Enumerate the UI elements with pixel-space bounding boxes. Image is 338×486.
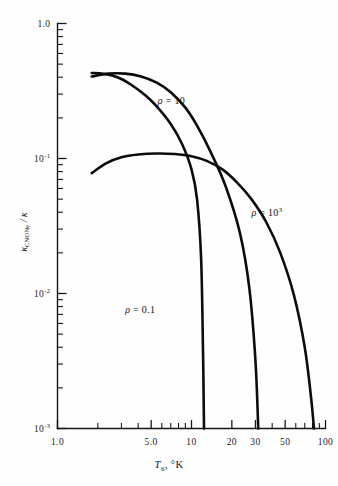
- data-curves-group: [92, 73, 314, 429]
- x-tick-label: 20: [227, 437, 237, 447]
- axes-group: [58, 24, 326, 429]
- tick-labels-group: 1.05.0102030501001.010-110-210-3: [34, 19, 333, 447]
- ticks-group: [58, 24, 326, 429]
- data-curve-rho-10: [92, 73, 259, 428]
- svg-text:κCNONe / κ: κCNONe / κ: [18, 212, 30, 252]
- svg-text:T6, °K: T6, °K: [155, 459, 184, 472]
- y-tick-label: 10-1: [34, 152, 51, 164]
- x-tick-label: 50: [280, 437, 290, 447]
- y-axis-title: κCNONe / κ: [18, 212, 30, 252]
- x-tick-label: 30: [250, 437, 260, 447]
- y-tick-label: 10-2: [34, 287, 51, 299]
- y-tick-label: 10-3: [34, 422, 51, 434]
- chart-canvas: 1.05.0102030501001.010-110-210-3 ρ = 0.1…: [0, 0, 338, 486]
- y-tick-label: 1.0: [37, 19, 50, 29]
- curve-label-rho-1e3: ρ = 103: [250, 206, 282, 218]
- x-tick-label: 10: [186, 437, 196, 447]
- curve-labels-group: ρ = 0.1ρ = 10ρ = 103: [124, 95, 282, 315]
- x-axis-title: T6, °K: [155, 459, 184, 472]
- x-tick-label: 5.0: [145, 437, 158, 447]
- data-curve-rho-0.1: [92, 73, 204, 429]
- x-tick-label: 1.0: [51, 437, 64, 447]
- x-tick-label: 100: [318, 437, 333, 447]
- curve-label-rho-10: ρ = 10: [157, 95, 185, 106]
- curve-label-rho-0.1: ρ = 0.1: [124, 304, 155, 315]
- chart-figure: 1.05.0102030501001.010-110-210-3 ρ = 0.1…: [0, 0, 338, 486]
